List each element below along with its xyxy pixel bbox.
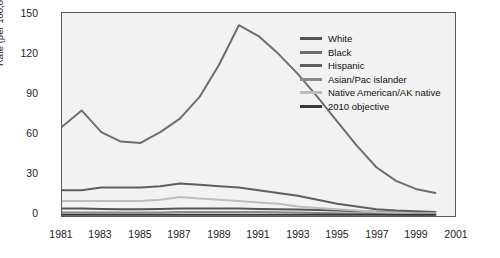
x-tick-label-1997: 1997 [357,228,397,240]
y-tick-label-90: 90 [4,87,38,99]
x-tick-label-1995: 1995 [317,228,357,240]
legend-label-native-american-ak-native: Native American/AK native [328,86,440,100]
y-tick-label-150: 150 [4,7,38,19]
legend: White Black Hispanic Asian/Pac islander … [300,32,440,113]
x-tick-label-1991: 1991 [238,228,278,240]
x-tick-label-1981: 1981 [41,228,81,240]
x-tick-label-2001: 2001 [436,228,476,240]
legend-item-black: Black [300,46,440,60]
legend-swatch-white [300,37,322,40]
legend-item-native-american-ak-native: Native American/AK native [300,86,440,100]
series-line [62,184,435,212]
legend-item-hispanic: Hispanic [300,59,440,73]
legend-swatch-black [300,51,322,54]
legend-swatch-asian-pac-islander [300,78,322,81]
y-tick-label-0: 0 [4,207,38,219]
legend-item-asian-pac-islander: Asian/Pac islander [300,73,440,87]
x-tick-label-1989: 1989 [199,228,239,240]
legend-item-2010-objective: 2010 objective [300,100,440,114]
x-tick-label-1985: 1985 [120,228,160,240]
legend-label-2010-objective: 2010 objective [328,100,389,114]
x-tick-label-1983: 1983 [80,228,120,240]
legend-swatch-hispanic [300,64,322,67]
x-tick-label-1987: 1987 [159,228,199,240]
tuberculosis-rate-line-chart: Rate (per 100,000 population) 150 120 90… [0,0,500,258]
legend-label-asian-pac-islander: Asian/Pac islander [328,73,407,87]
legend-swatch-native-american-ak-native [300,91,322,94]
legend-item-white: White [300,32,440,46]
legend-label-white: White [328,32,352,46]
legend-label-black: Black [328,46,351,60]
legend-label-hispanic: Hispanic [328,59,364,73]
y-tick-label-60: 60 [4,127,38,139]
legend-swatch-2010-objective [300,105,322,108]
x-tick-label-1993: 1993 [278,228,318,240]
y-tick-label-120: 120 [4,47,38,59]
y-tick-label-30: 30 [4,167,38,179]
x-tick-label-1999: 1999 [396,228,436,240]
